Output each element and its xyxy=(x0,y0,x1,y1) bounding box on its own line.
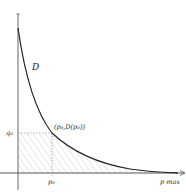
y-tick-label-q0: q₀ xyxy=(6,129,13,137)
x-end-label-pmax: p max xyxy=(160,178,180,186)
revenue-rectangle xyxy=(18,133,52,173)
curve-label-d: D xyxy=(31,62,39,72)
demand-diagram: D (p₀,D(p₀)) q₀ p₀ p max xyxy=(0,0,186,193)
area-under-curve xyxy=(52,133,178,173)
x-tick-label-p0: p₀ xyxy=(48,178,55,186)
point-label: (p₀,D(p₀)) xyxy=(54,123,85,131)
